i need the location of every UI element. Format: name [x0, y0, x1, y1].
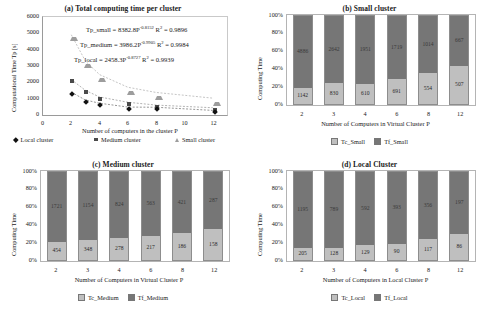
diamond-marker-icon	[13, 137, 18, 142]
bar-value-label: 667	[455, 38, 463, 44]
bar-segment-tf_small-8: 1014	[418, 15, 438, 73]
legend-label-local-cluster: Local cluster	[21, 136, 54, 143]
data-point-small-8	[155, 92, 163, 100]
panel-a-xtick-6: 6	[121, 119, 134, 126]
bar-segment-tf_small-12: 667	[449, 15, 469, 66]
panel-b-ytick-100: 100%	[254, 11, 283, 18]
bar-column-4: 824278	[109, 171, 129, 261]
panel-b-ytick-0: 0%	[254, 100, 283, 107]
panel-d-local-cluster: (d) Local Cluster Computing Time 1195205…	[246, 156, 493, 312]
x-tick-4: 4	[358, 266, 372, 273]
panel-b-small-cluster: (b) Small cluster Computing Time 4886114…	[246, 0, 493, 156]
legend-swatch-icon-tf-local	[374, 294, 381, 301]
data-point-small-6	[127, 87, 135, 95]
panel-d-title: (d) Local Cluster	[246, 160, 493, 169]
panel-c-ytick-0: 0%	[8, 256, 37, 263]
bar-value-label: 507	[455, 82, 463, 88]
panel-c-x-axis-label: Number of Computers in Virtual Cluster P	[18, 276, 240, 283]
bar-value-label: 592	[361, 206, 369, 212]
bar-segment-tf_medium-8: 421	[172, 171, 192, 233]
panel-a-ytick-6000: 6000	[10, 12, 39, 19]
bar-value-label: 205	[298, 251, 306, 257]
bar-value-label: 610	[361, 91, 369, 97]
panel-a-xtick-4: 4	[93, 119, 106, 126]
bar-segment-tc_small-2: 1142	[293, 88, 313, 105]
data-point-local-3	[83, 99, 89, 105]
bar-column-2: 48861142	[293, 15, 313, 105]
panel-a-ytick-5000: 5000	[10, 28, 39, 35]
bar-value-label: 393	[392, 205, 400, 211]
x-tick-8: 8	[422, 110, 436, 117]
bar-column-3: 1154348	[78, 171, 98, 261]
annotation-small-fit: Tp_small = 8382.8P-0.8152 R2 = 0.9896	[86, 25, 187, 33]
legend-label-small-cluster: Small cluster	[182, 136, 215, 143]
legend-item-tf-local: Tf_Local	[374, 294, 407, 301]
bar-value-label: 1142	[297, 93, 308, 99]
panel-c-legend: Tc_Medium Tf_Medium	[0, 294, 246, 301]
bar-column-8: 421186	[172, 171, 192, 261]
bar-value-label: 454	[52, 248, 60, 254]
x-tick-6: 6	[390, 266, 404, 273]
bar-segment-tf_local-12: 197	[449, 171, 469, 234]
bar-value-label: 117	[424, 247, 432, 253]
legend-label-tc-local: Tc_Local	[341, 294, 365, 301]
bar-segment-tc_local-8: 117	[418, 239, 438, 261]
data-point-small-4	[98, 74, 106, 82]
bar-segment-tc_medium-6: 217	[141, 236, 161, 261]
panel-b-ytick-40: 40%	[254, 64, 283, 71]
panel-c-ytick-80: 80%	[8, 184, 37, 191]
bar-segment-tf_medium-6: 563	[141, 171, 161, 236]
panel-a-ytick-3000: 3000	[10, 61, 39, 68]
bar-value-label: 789	[330, 207, 338, 213]
panel-d-legend: Tc_Local Tf_Local	[246, 294, 493, 301]
bar-value-label: 86	[457, 244, 463, 250]
bar-column-12: 667507	[449, 15, 469, 105]
bar-segment-tc_medium-8: 186	[172, 233, 192, 261]
data-point-small-2	[70, 33, 78, 41]
bar-value-label: 217	[146, 245, 154, 251]
bar-column-2: 1195205	[293, 171, 313, 261]
panel-a-xtick-12: 12	[207, 119, 220, 126]
bar-value-label: 129	[361, 250, 369, 256]
bar-value-label: 1719	[391, 45, 402, 51]
panel-a-total-computing-time: (a) Total computing time per cluster Com…	[0, 0, 246, 156]
x-tick-3: 3	[81, 266, 95, 273]
data-point-local-4	[97, 102, 103, 108]
bar-column-3: 789128	[324, 171, 344, 261]
panel-b-legend: Tc_Small Tf_Small	[246, 138, 493, 145]
legend-label-tf-small: Tf_Small	[384, 138, 408, 145]
bar-segment-tf_local-6: 393	[387, 171, 407, 244]
bar-segment-tc_small-3: 830	[324, 83, 344, 105]
bar-segment-tf_local-8: 356	[418, 171, 438, 239]
bar-segment-tc_local-12: 86	[449, 234, 469, 261]
square-marker-icon	[94, 138, 98, 142]
bar-value-label: 691	[392, 89, 400, 95]
legend-label-tc-small: Tc_Small	[341, 138, 365, 145]
panel-b-ytick-80: 80%	[254, 28, 283, 35]
bar-column-6: 39390	[387, 171, 407, 261]
bar-segment-tc_small-8: 554	[418, 73, 438, 105]
panel-b-ytick-20: 20%	[254, 82, 283, 89]
bar-column-12: 287158	[203, 171, 223, 261]
bar-segment-tc_medium-2: 454	[47, 242, 67, 261]
panel-d-plot-area: 11952057891285921293939035611719786	[286, 170, 476, 262]
panel-d-x-axis-label: Number of Computers in Local Cluster P	[264, 276, 487, 283]
legend-item-tc-medium: Tc_Medium	[78, 294, 119, 301]
x-tick-4: 4	[358, 110, 372, 117]
bar-segment-tc_small-12: 507	[449, 66, 469, 105]
panel-a-xtick-2: 2	[64, 119, 77, 126]
legend-swatch-icon-tf-medium	[128, 294, 135, 301]
bar-segment-tc_small-4: 610	[355, 84, 375, 105]
panel-a-ytick-1000: 1000	[10, 94, 39, 101]
bar-segment-tc_medium-12: 158	[203, 229, 223, 261]
data-point-medium-3	[84, 90, 88, 94]
annotation-local-fit: Tp_local = 2458.3P-0.8727 R2 = 0.9939	[74, 55, 174, 63]
data-point-local-12	[212, 109, 218, 115]
panel-c-ytick-20: 20%	[8, 238, 37, 245]
panel-c-ytick-100: 100%	[8, 167, 37, 174]
x-tick-3: 3	[327, 266, 341, 273]
panel-a-legend: Local cluster Medium cluster Small clust…	[4, 136, 242, 143]
figure-four-panel-computing-time: (a) Total computing time per cluster Com…	[0, 0, 493, 312]
panel-a-xtick-8: 8	[150, 119, 163, 126]
legend-swatch-icon-tc-local	[331, 294, 338, 301]
